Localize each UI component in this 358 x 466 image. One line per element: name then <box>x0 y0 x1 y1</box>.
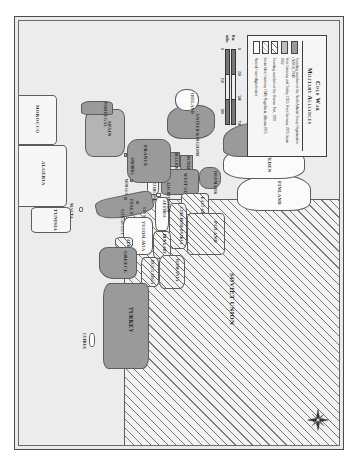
legend-label-neutral: Neutral / non-aligned states <box>254 58 258 97</box>
legend-swatch-neutral <box>253 41 260 54</box>
country-finland[interactable] <box>237 175 311 211</box>
country-denmark[interactable] <box>199 167 221 189</box>
country-ireland[interactable] <box>175 89 199 111</box>
legend-title-line2: Military Alliances <box>307 68 314 125</box>
map-inner-frame: SOVIET UNION FINLAND SWEDEN NORWAY DENMA… <box>18 20 340 446</box>
scale-km-row: Km <box>231 35 236 143</box>
country-cyprus[interactable] <box>89 333 95 347</box>
compass-rose <box>307 409 329 431</box>
legend-row-nato-later[interactable]: West Germany and Turkey 1952; West Germa… <box>280 41 289 151</box>
legend-row-nato[interactable]: Founding members of the North Atlantic T… <box>291 41 300 151</box>
country-romania[interactable] <box>159 255 185 289</box>
country-greece[interactable] <box>99 247 137 279</box>
legend-row-soviet-bloc[interactable]: Soviet bloc; Germany 1949; Yugoslavia, A… <box>262 41 269 151</box>
legend-label-nato: Founding members of the North Atlantic T… <box>291 58 300 152</box>
legend-label-nato-later: West Germany and Turkey 1952; West Germa… <box>280 58 289 152</box>
legend-row-neutral[interactable]: Neutral / non-aligned states <box>253 41 260 151</box>
country-spain[interactable] <box>85 109 125 157</box>
country-liechtenstein[interactable] <box>156 193 161 197</box>
scale-km-tick-0: 0 <box>237 48 241 50</box>
legend-swatch-soviet-bloc <box>262 41 269 54</box>
country-vatican-city[interactable] <box>124 197 127 200</box>
scale-miles-label: miles <box>226 35 230 49</box>
compass-icon <box>307 409 329 431</box>
country-tunisia[interactable] <box>31 207 71 233</box>
legend-title-line1: Cold War <box>315 81 322 111</box>
scale-mile-tick-2: 500 <box>220 109 224 114</box>
scale-miles-row: miles <box>225 35 230 143</box>
country-malta[interactable] <box>79 207 83 212</box>
legend-swatch-warsaw-pact <box>271 41 278 54</box>
scale-km-tick-3: 750 <box>237 121 241 126</box>
scale-km-bar <box>231 49 236 125</box>
scale-km-tick-2: 500 <box>237 95 241 100</box>
country-san-marino[interactable] <box>136 201 139 204</box>
map-scale-bar: 0 250 500 750 Km miles 0 250 500 <box>219 35 241 143</box>
scale-km-label: Km <box>232 35 236 49</box>
scale-miles-bar <box>225 49 230 125</box>
rotated-map-wrapper: SOVIET UNION FINLAND SWEDEN NORWAY DENMA… <box>14 16 344 450</box>
legend-row-warsaw-pact[interactable]: Founding members of the Warsaw Pact, 195… <box>271 41 278 151</box>
country-algeria[interactable] <box>18 145 67 207</box>
legend-label-warsaw-pact: Founding members of the Warsaw Pact, 195… <box>272 58 276 122</box>
scale-mile-tick-1: 250 <box>220 78 224 83</box>
map-page: SOVIET UNION FINLAND SWEDEN NORWAY DENMA… <box>0 0 358 466</box>
scale-mile-ticks: 0 250 500 <box>219 49 224 123</box>
legend-label-soviet-bloc: Soviet bloc; Germany 1949; Yugoslavia, A… <box>263 58 267 134</box>
country-france[interactable] <box>127 139 171 183</box>
country-monaco[interactable] <box>130 179 133 182</box>
scale-km-ticks: 0 250 500 750 <box>236 49 241 123</box>
country-netherlands[interactable] <box>180 155 193 170</box>
map-frame: SOVIET UNION FINLAND SWEDEN NORWAY DENMA… <box>14 16 344 450</box>
country-poland[interactable] <box>187 213 225 255</box>
scale-mile-tick-0: 0 <box>220 48 224 50</box>
country-czechoslovakia[interactable] <box>169 203 187 249</box>
legend-swatch-nato-later <box>281 41 288 54</box>
country-morocco[interactable] <box>18 95 57 145</box>
country-andorra[interactable] <box>124 153 127 157</box>
country-austria[interactable] <box>155 197 169 231</box>
country-portugal[interactable] <box>81 101 113 115</box>
map-legend[interactable]: Cold War Military Alliances Founding mem… <box>247 35 327 157</box>
legend-title: Cold War Military Alliances <box>302 41 322 151</box>
scale-km-tick-1: 250 <box>237 71 241 76</box>
country-turkey[interactable] <box>103 283 149 369</box>
legend-swatch-nato <box>291 41 298 54</box>
